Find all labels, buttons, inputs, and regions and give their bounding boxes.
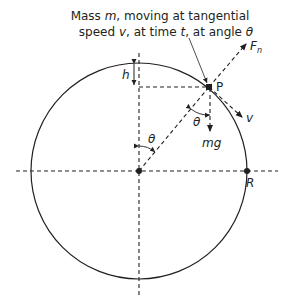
- velocity-vector: [209, 87, 242, 117]
- caption-line-1: Mass m, moving at tangential: [71, 9, 250, 23]
- height-label: h: [122, 68, 130, 82]
- gravity-label: mg: [202, 136, 222, 150]
- normal-force-vector: [209, 44, 246, 87]
- radial-line: [139, 87, 209, 171]
- point-p-marker: [206, 84, 212, 90]
- circular-motion-diagram: Mass m, moving at tangential speed v, at…: [0, 0, 288, 308]
- angle-arc-center: [139, 146, 155, 152]
- velocity-label: v: [246, 111, 254, 125]
- radius-point-marker: [244, 168, 250, 174]
- center-point-marker: [136, 168, 142, 174]
- normal-force-label: Fn: [250, 39, 262, 55]
- point-p-label: P: [216, 80, 223, 94]
- angle-center-label: θ: [148, 132, 156, 146]
- angle-point-label: θ: [193, 115, 201, 129]
- caption-line-2: speed v, at time t, at angle θ: [79, 25, 254, 39]
- radius-label: R: [246, 176, 254, 190]
